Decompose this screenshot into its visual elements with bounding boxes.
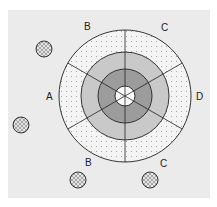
hatched-circle [36, 41, 52, 57]
label-top-left: B [84, 21, 91, 32]
label-bottom-right: C [160, 158, 167, 169]
hatched-circle [70, 172, 86, 188]
target-diagram: B C A D B C [0, 0, 217, 207]
hatched-circle [142, 172, 158, 188]
hatched-circle [13, 117, 29, 133]
label-top-right: C [161, 22, 168, 33]
label-left: A [46, 91, 53, 102]
label-right: D [196, 91, 203, 102]
label-bottom-left: B [85, 157, 92, 168]
target [59, 30, 191, 162]
